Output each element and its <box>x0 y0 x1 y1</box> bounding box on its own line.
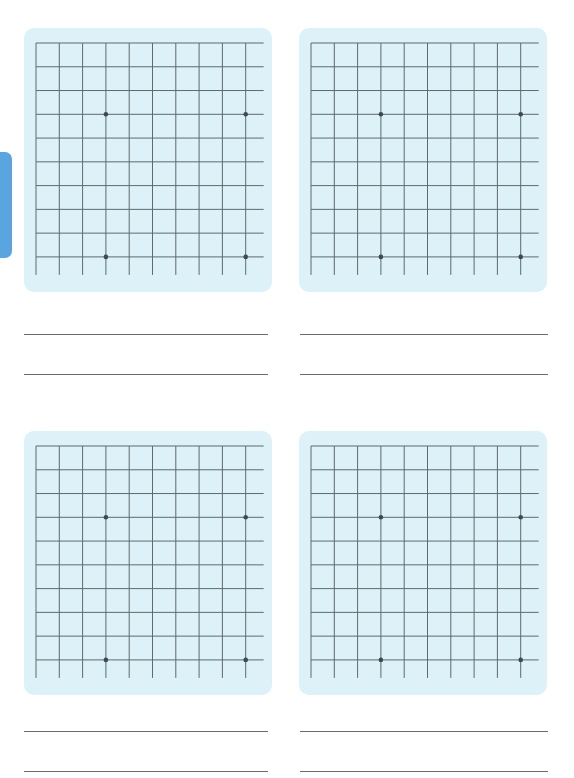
answer-line-2b[interactable] <box>300 374 548 375</box>
grid-dot[interactable] <box>379 112 384 117</box>
grid-dot[interactable] <box>518 658 523 663</box>
grid-dot[interactable] <box>243 515 248 520</box>
answer-line-3b[interactable] <box>24 771 268 772</box>
answer-line-1a[interactable] <box>24 334 268 335</box>
dot-grid <box>299 431 547 695</box>
grid-panel-4 <box>299 431 547 695</box>
dot-grid <box>24 431 272 695</box>
grid-dot[interactable] <box>518 515 523 520</box>
grid-dot[interactable] <box>243 658 248 663</box>
grid-dot[interactable] <box>243 255 248 260</box>
side-tab <box>0 152 12 258</box>
grid-dot[interactable] <box>379 515 384 520</box>
grid-dot[interactable] <box>104 658 109 663</box>
dot-grid <box>299 28 547 292</box>
grid-dot[interactable] <box>104 255 109 260</box>
grid-panel-1 <box>24 28 272 292</box>
grid-panel-2 <box>299 28 547 292</box>
grid-panel-3 <box>24 431 272 695</box>
grid-dot[interactable] <box>104 515 109 520</box>
grid-dot[interactable] <box>379 658 384 663</box>
answer-line-1b[interactable] <box>24 374 268 375</box>
grid-dot[interactable] <box>518 112 523 117</box>
answer-line-2a[interactable] <box>300 334 548 335</box>
answer-line-3a[interactable] <box>24 731 268 732</box>
grid-dot[interactable] <box>518 255 523 260</box>
grid-dot[interactable] <box>379 255 384 260</box>
grid-dot[interactable] <box>104 112 109 117</box>
grid-dot[interactable] <box>243 112 248 117</box>
answer-line-4b[interactable] <box>300 771 548 772</box>
answer-line-4a[interactable] <box>300 731 548 732</box>
dot-grid <box>24 28 272 292</box>
